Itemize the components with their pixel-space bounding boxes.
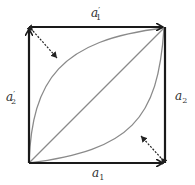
paths xyxy=(29,28,164,163)
label-a1: a1 xyxy=(92,167,104,182)
diagram-canvas xyxy=(0,0,195,185)
diagram: a′1 a′2 a2 a1 xyxy=(0,0,195,185)
dashed-arrow-bottom-right xyxy=(141,136,161,158)
diagonal-line xyxy=(29,28,164,163)
label-a2-prime: a′2 xyxy=(6,90,16,106)
label-a1-prime: a′1 xyxy=(91,6,101,22)
label-a2: a2 xyxy=(175,90,187,105)
dashed-arrow-top-left xyxy=(33,31,57,58)
